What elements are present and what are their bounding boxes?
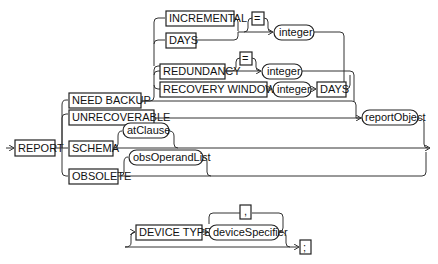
svg-text:obsOperandList: obsOperandList xyxy=(133,151,211,163)
svg-text:SCHEMA: SCHEMA xyxy=(72,142,120,154)
svg-text:integer: integer xyxy=(279,26,313,38)
keyword-need-backup: NEED BACKUP xyxy=(69,93,151,108)
svg-text:DEVICE TYPE: DEVICE TYPE xyxy=(139,226,212,238)
svg-text:=: = xyxy=(254,12,260,24)
nonterminal-integer-1: integer xyxy=(274,25,314,40)
keyword-days-2: DAYS xyxy=(317,82,349,97)
svg-text:reportObject: reportObject xyxy=(365,111,426,123)
syntax-diagram: REPORT NEED BACKUP UNRECOVERABLE SCHEMA … xyxy=(0,0,438,264)
svg-text:UNRECOVERABLE: UNRECOVERABLE xyxy=(72,111,170,123)
svg-text:,: , xyxy=(244,205,247,217)
svg-text:atClause: atClause xyxy=(127,124,170,136)
svg-text:DAYS: DAYS xyxy=(169,34,198,46)
nonterminal-integer-3: integer xyxy=(273,82,311,97)
svg-text:;: ; xyxy=(303,241,306,253)
keyword-device-type: DEVICE TYPE xyxy=(136,225,212,240)
svg-text:integer: integer xyxy=(267,65,301,77)
nonterminal-obs-operand-list: obsOperandList xyxy=(129,150,211,165)
svg-text:deviceSpecifier: deviceSpecifier xyxy=(213,226,288,238)
nonterminal-device-specifier: deviceSpecifier xyxy=(209,225,288,240)
nonterminal-integer-2: integer xyxy=(262,64,302,79)
svg-text:integer: integer xyxy=(277,83,311,95)
keyword-schema: SCHEMA xyxy=(69,141,120,156)
nonterminal-report-object: reportObject xyxy=(362,110,426,125)
svg-text:NEED BACKUP: NEED BACKUP xyxy=(72,94,151,106)
svg-text:=: = xyxy=(242,52,248,64)
keyword-days: DAYS xyxy=(166,33,198,48)
symbol-equals-1: = xyxy=(252,12,264,25)
symbol-comma: , xyxy=(240,205,251,219)
symbol-semicolon: ; xyxy=(300,240,311,254)
symbol-equals-2: = xyxy=(240,52,252,65)
nonterminal-at-clause: atClause xyxy=(123,123,170,138)
svg-text:DAYS: DAYS xyxy=(320,83,349,95)
